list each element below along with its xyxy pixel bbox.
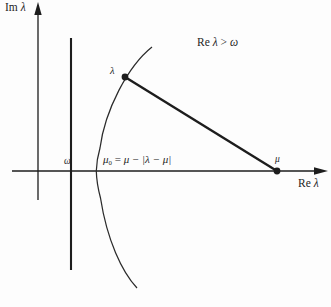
mu-point-label: μ [275,155,280,165]
region-condition-bound: ω [230,36,238,48]
mu-zero-formula-rhs: μ − |λ − μ| [124,153,172,165]
lambda-point-marker [122,74,129,81]
mu-zero-formula: μ0 = μ − |λ − μ| [103,154,171,167]
real-axis-group [12,167,328,175]
real-axis-label-symbol: λ [314,177,319,189]
imaginary-axis-group [34,2,41,200]
mu-zero-formula-equals: = [112,153,124,165]
region-condition-prefix: Re [197,36,213,48]
imaginary-axis-label: Im λ [5,2,26,14]
real-axis-label-text: Re [298,177,314,189]
imaginary-axis-label-symbol: λ [21,1,26,13]
region-condition-annotation: Re λ > ω [197,37,238,49]
region-condition-relation: > [218,36,230,48]
real-axis-arrowhead [314,167,328,175]
real-axis-label: Re λ [298,178,319,190]
parabola-curve [96,47,152,288]
imaginary-axis-arrowhead [34,2,41,15]
mu-point-marker [274,168,281,175]
imaginary-axis-label-text: Im [5,1,21,13]
lambda-point-label: λ [110,66,115,77]
omega-label: ω [64,157,71,167]
complex-plane-diagram: Im λ Re λ Re λ > ω ω λ μ μ0 = μ − |λ − μ… [0,0,331,307]
